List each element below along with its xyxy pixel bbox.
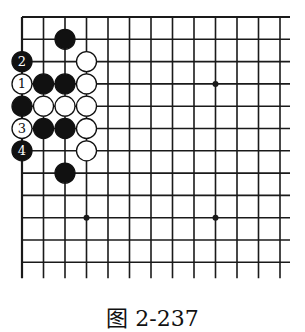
black-stone (12, 96, 32, 116)
move-number: 2 (18, 54, 26, 69)
black-stone (34, 119, 54, 139)
white-stone (77, 96, 97, 116)
black-stone (55, 119, 75, 139)
white-stone (77, 52, 97, 72)
black-stone (55, 74, 75, 94)
white-stone (55, 96, 75, 116)
move-number: 1 (18, 76, 26, 91)
black-stone (34, 74, 54, 94)
white-stone (77, 141, 97, 161)
white-stone (77, 74, 97, 94)
move-number: 4 (18, 143, 26, 158)
star-point (84, 215, 90, 221)
white-stone (34, 96, 54, 116)
star-point (213, 81, 219, 87)
move-number: 3 (18, 121, 26, 136)
white-stone (77, 119, 97, 139)
go-board: 2134 (0, 0, 305, 300)
black-stone (55, 29, 75, 49)
star-point (213, 215, 219, 221)
figure-caption: 图 2-237 (0, 300, 305, 332)
black-stone (55, 163, 75, 183)
